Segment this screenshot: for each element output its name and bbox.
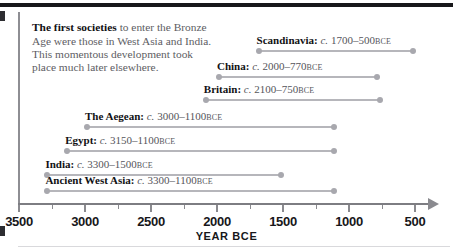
axis-tick-minor: [382, 205, 383, 209]
timeline-bar-label: Britain: c. 2100–750BCE: [204, 83, 315, 95]
axis-tick-major: [282, 205, 284, 212]
timeline-year-range: 3150–1100: [110, 134, 159, 146]
timeline-era-label: BCE: [197, 177, 213, 186]
timeline-era-label: BCE: [159, 137, 175, 146]
timeline-region-name: Britain:: [204, 83, 241, 95]
axis-tick-label: 2000: [203, 214, 231, 229]
timeline-year-range: 3000–1100: [157, 110, 206, 122]
timeline-region-name: Scandinavia:: [257, 34, 318, 46]
timeline-circa-marker: c.: [244, 83, 252, 95]
axis-tick-label: 1500: [269, 214, 297, 229]
timeline-bar-start-dot: [203, 97, 209, 103]
timeline-bar-line: [45, 190, 335, 192]
timeline-region-name: India:: [45, 158, 74, 170]
timeline-bar-label: China: c. 2000–770BCE: [217, 60, 323, 72]
axis-tick-label: 1000: [335, 214, 363, 229]
timeline-circa-marker: c.: [100, 134, 108, 146]
axis-title: YEAR BCE: [0, 230, 453, 242]
timeline-bar-end-dot: [410, 48, 416, 54]
timeline-circa-marker: c.: [147, 110, 155, 122]
vertical-axis-line: [18, 12, 20, 204]
axis-tick-major: [150, 205, 152, 212]
axis-arrow-icon: [428, 198, 439, 210]
bottom-divider-rule: [18, 246, 450, 247]
intro-paragraph: The first societies to enter the Bronze …: [32, 21, 214, 74]
timeline-bar-line: [204, 99, 382, 101]
timeline-era-label: BCE: [137, 161, 153, 170]
timeline-era-label: BCE: [307, 63, 323, 72]
timeline-circa-marker: c.: [320, 34, 328, 46]
timeline-bar-start-dot: [44, 188, 50, 194]
timeline-region-name: The Aegean:: [85, 110, 144, 122]
axis-tick-minor: [250, 205, 251, 209]
axis-tick-major: [348, 205, 350, 212]
timeline-region-name: Ancient West Asia:: [45, 174, 134, 186]
timeline-year-range: 2100–750: [254, 83, 298, 95]
timeline-era-label: BCE: [298, 86, 314, 95]
axis-tick-major: [84, 205, 86, 212]
timeline-circa-marker: c.: [137, 174, 145, 186]
axis-tick-minor: [184, 205, 185, 209]
axis-tick-label: 500: [405, 214, 426, 229]
axis-tick-label: 2500: [137, 214, 165, 229]
timeline-bar-label: Scandinavia: c. 1700–500BCE: [257, 34, 391, 46]
timeline-year-range: 1700–500: [331, 34, 375, 46]
axis-tick-major: [216, 205, 218, 212]
intro-lead-in: The first societies: [32, 21, 117, 33]
timeline-bar-start-dot: [64, 148, 70, 154]
axis-tick-minor: [52, 205, 53, 209]
timeline-bar-end-dot: [374, 74, 380, 80]
axis-tick-minor: [316, 205, 317, 209]
timeline-era-label: BCE: [375, 37, 391, 46]
timeline-bar-label: Ancient West Asia: c. 3300–1100BCE: [45, 174, 212, 186]
timeline-year-range: 3300–1500: [87, 158, 137, 170]
axis-tick-major: [18, 205, 20, 212]
timeline-bar-label: The Aegean: c. 3000–1100BCE: [85, 110, 222, 122]
timeline-bar-label: India: c. 3300–1500BCE: [45, 158, 153, 170]
page-edge-mark-top: [0, 11, 5, 21]
timeline-circa-marker: c.: [77, 158, 85, 170]
timeline-era-label: BCE: [206, 113, 222, 122]
timeline-bar-line: [65, 150, 336, 152]
timeline-circa-marker: c.: [252, 60, 260, 72]
axis-tick-minor: [118, 205, 119, 209]
timeline-bar-start-dot: [256, 48, 262, 54]
timeline-year-range: 3300–1100: [148, 174, 197, 186]
timeline-bar-label: Egypt: c. 3150–1100BCE: [65, 134, 175, 146]
axis-tick-major: [414, 205, 416, 212]
axis-tick-label: 3500: [5, 214, 33, 229]
timeline-bar-end-dot: [331, 148, 337, 154]
top-divider-rule: [0, 3, 453, 7]
timeline-bar-end-dot: [278, 172, 284, 178]
timeline-bar-start-dot: [84, 124, 90, 130]
timeline-bar-start-dot: [216, 74, 222, 80]
timeline-bar-end-dot: [331, 124, 337, 130]
timeline-bar-line: [217, 76, 379, 78]
bronze-age-timeline-figure: The first societies to enter the Bronze …: [0, 0, 453, 249]
timeline-region-name: China:: [217, 60, 249, 72]
axis-tick-label: 3000: [71, 214, 99, 229]
timeline-bar-line: [257, 50, 415, 52]
timeline-bar-end-dot: [331, 188, 337, 194]
timeline-year-range: 2000–770: [263, 60, 307, 72]
timeline-region-name: Egypt:: [65, 134, 97, 146]
horizontal-axis-line: [18, 203, 434, 205]
timeline-bar-line: [85, 126, 336, 128]
timeline-bar-end-dot: [377, 97, 383, 103]
